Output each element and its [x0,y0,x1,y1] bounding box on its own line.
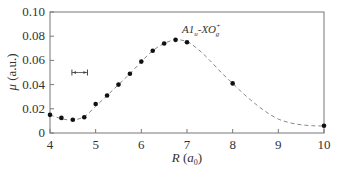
data-point [93,102,98,107]
data-point [150,48,155,53]
fit-curve-dashed [50,40,324,126]
x-tick-label: 9 [275,137,282,152]
y-axis-title: μ (a.u.) [4,53,19,91]
data-point [162,41,167,46]
curve-annotation-label: A1u-XO+g [181,22,221,38]
data-point [128,71,133,76]
data-point [71,117,76,122]
x-axis-ticks: 45678910 [47,129,331,152]
error-bar-indicator [72,70,88,76]
data-point [230,81,235,86]
y-tick-label: 0.10 [22,4,45,19]
x-tick-label: 4 [47,137,54,152]
y-tick-label: 0.06 [22,52,45,67]
data-point [173,38,178,43]
x-tick-label: 6 [138,137,145,152]
y-tick-label: 0.08 [22,28,45,43]
data-point [59,116,64,121]
data-point [185,40,190,45]
x-tick-label: 8 [229,137,236,152]
y-tick-label: 0.02 [22,101,45,116]
y-axis-ticks: 00.020.040.060.080.10 [22,4,54,140]
chart: 45678910 00.020.040.060.080.10 R (a0) μ … [0,0,345,169]
data-point [48,113,53,118]
data-point [116,82,121,87]
data-point [105,93,110,98]
y-tick-label: 0.04 [22,77,45,92]
data-points [48,38,327,129]
data-point [322,123,327,128]
x-tick-label: 5 [92,137,99,152]
x-tick-label: 10 [318,137,331,152]
y-tick-label: 0 [39,125,46,140]
data-point [82,115,87,120]
data-point [139,59,144,64]
x-axis-title: R (a0) [171,150,202,167]
